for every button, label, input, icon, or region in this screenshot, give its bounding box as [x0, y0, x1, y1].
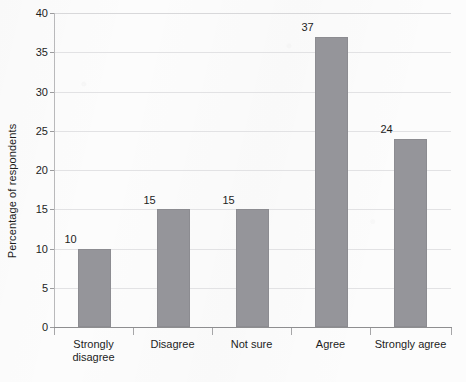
- y-tick-label-35: 35: [8, 46, 48, 58]
- y-tick-label-0: 0: [8, 321, 48, 333]
- y-tick-label-20: 20: [8, 164, 48, 176]
- x-tick-boundary-5: [451, 328, 452, 335]
- y-axis-line: [54, 13, 55, 328]
- bar-chart-figure: Percentage of respondents 0 5 10 15 20 2…: [0, 0, 466, 382]
- x-tick-boundary-0: [54, 328, 55, 335]
- bar-value-strongly-disagree: 10: [44, 233, 98, 245]
- x-tick-boundary-2: [212, 328, 213, 335]
- y-tick-label-25: 25: [8, 125, 48, 137]
- bar-agree[interactable]: [315, 37, 348, 327]
- y-tick-label-5: 5: [8, 282, 48, 294]
- x-axis-line: [54, 327, 452, 328]
- x-category-line-1: Strongly agree: [363, 338, 459, 351]
- plot-area: [54, 13, 451, 327]
- x-tick-boundary-3: [291, 328, 292, 335]
- bar-disagree[interactable]: [157, 209, 190, 327]
- gridline-20: [54, 170, 451, 171]
- gridline-40: [54, 13, 451, 14]
- y-tick-label-40: 40: [8, 7, 48, 19]
- bar-value-strongly-agree: 24: [360, 123, 414, 135]
- bar-value-disagree: 15: [123, 194, 177, 206]
- bar-strongly-agree[interactable]: [394, 139, 427, 327]
- x-category-line-2: disagree: [46, 351, 142, 364]
- x-category-label-strongly-agree: Strongly agree: [363, 338, 459, 351]
- y-tick-label-30: 30: [8, 86, 48, 98]
- x-tick-boundary-4: [370, 328, 371, 335]
- bar-value-not-sure: 15: [202, 194, 256, 206]
- bar-strongly-disagree[interactable]: [78, 249, 111, 328]
- y-axis-ticks: 0 5 10 15 20 25 30 35 40: [0, 0, 48, 382]
- gridline-30: [54, 92, 451, 93]
- y-tick-label-10: 10: [8, 243, 48, 255]
- x-tick-boundary-1: [133, 328, 134, 335]
- y-tick-label-15: 15: [8, 203, 48, 215]
- bar-not-sure[interactable]: [236, 209, 269, 327]
- gridline-35: [54, 52, 451, 53]
- bar-value-agree: 37: [281, 21, 335, 33]
